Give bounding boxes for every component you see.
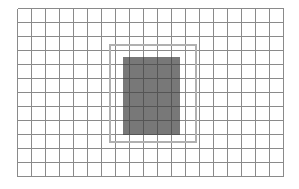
figure-canvas — [0, 0, 299, 189]
grid-diagram — [0, 0, 299, 189]
